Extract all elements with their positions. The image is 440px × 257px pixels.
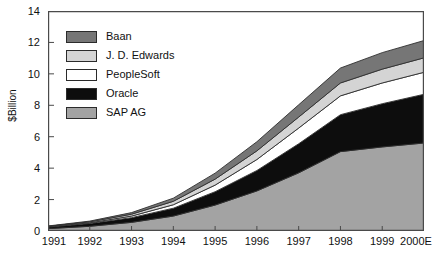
legend-swatch — [66, 31, 97, 43]
legend-swatch — [66, 50, 97, 62]
x-tick-label: 1995 — [203, 236, 227, 247]
legend-item: SAP AG — [66, 103, 174, 122]
legend-item: J. D. Edwards — [66, 46, 174, 65]
legend-label: PeopleSoft — [106, 69, 160, 80]
legend-label: Baan — [106, 31, 132, 42]
y-tick-label: 12 — [28, 37, 40, 48]
legend-label: J. D. Edwards — [106, 50, 174, 61]
legend-item: Oracle — [66, 84, 174, 103]
chart-legend: BaanJ. D. EdwardsPeopleSoftOracleSAP AG — [66, 27, 174, 122]
legend-swatch — [66, 107, 97, 119]
x-tick-label: 1997 — [286, 236, 310, 247]
y-tick-label: 14 — [28, 6, 40, 17]
y-tick-label: 0 — [34, 226, 40, 237]
x-tick-label: 1999 — [370, 236, 394, 247]
y-tick-label: 6 — [34, 131, 40, 142]
stacked-area-chart: $Billion 02468101214 1991199219931994199… — [0, 0, 440, 257]
y-axis-tick-labels: 02468101214 — [0, 0, 40, 257]
legend-item: Baan — [66, 27, 174, 46]
x-tick-label: 1992 — [78, 236, 102, 247]
x-tick-label: 1998 — [328, 236, 352, 247]
y-tick-label: 2 — [34, 194, 40, 205]
legend-item: PeopleSoft — [66, 65, 174, 84]
x-axis-tick-labels: 1991199219931994199519961997199819992000… — [0, 236, 440, 254]
y-tick-label: 10 — [28, 68, 40, 79]
x-tick-label: 1996 — [245, 236, 269, 247]
x-tick-label: 1991 — [42, 236, 66, 247]
legend-label: Oracle — [106, 88, 138, 99]
x-tick-label: 1993 — [119, 236, 143, 247]
legend-label: SAP AG — [106, 107, 146, 118]
y-tick-label: 8 — [34, 100, 40, 111]
legend-swatch — [66, 88, 97, 100]
x-tick-label: 2000E — [400, 236, 432, 247]
y-tick-label: 4 — [34, 163, 40, 174]
legend-swatch — [66, 69, 97, 81]
x-tick-label: 1994 — [161, 236, 185, 247]
